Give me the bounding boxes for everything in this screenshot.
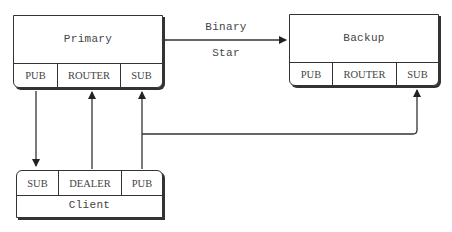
primary-router-socket: ROUTER (58, 64, 121, 87)
diagram-canvas: Binary Star Primary PUB ROUTER SUB Backu… (0, 0, 452, 232)
client-node: SUB DEALER PUB Client (16, 170, 163, 218)
primary-title: Primary (14, 33, 162, 45)
backup-pub-socket: PUB (290, 63, 333, 85)
primary-pub-socket: PUB (14, 64, 58, 87)
backup-title: Backup (290, 32, 438, 44)
backup-node: Backup PUB ROUTER SUB (289, 14, 439, 86)
primary-node: Primary PUB ROUTER SUB (13, 15, 163, 88)
client-pub-to-backup-sub-arrow (142, 90, 417, 134)
client-dealer-socket: DEALER (59, 171, 122, 195)
backup-router-socket: ROUTER (333, 63, 397, 85)
backup-sub-socket: SUB (397, 63, 438, 85)
link-label-binary: Binary (196, 21, 256, 33)
primary-sub-socket: SUB (121, 64, 162, 87)
link-label-star: Star (196, 47, 256, 59)
client-sockets: SUB DEALER PUB (17, 171, 162, 196)
client-title: Client (17, 199, 162, 211)
client-sub-socket: SUB (17, 171, 59, 195)
client-pub-socket: PUB (122, 171, 162, 195)
primary-sockets: PUB ROUTER SUB (14, 63, 162, 87)
backup-sockets: PUB ROUTER SUB (290, 62, 438, 85)
